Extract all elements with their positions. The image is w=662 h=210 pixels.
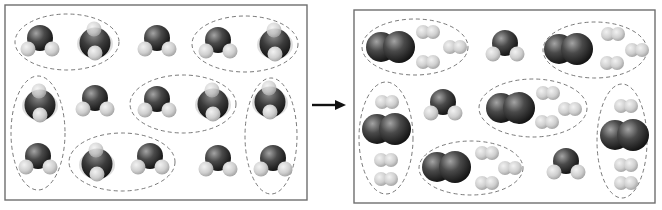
reaction-diagram [0,0,662,210]
oxygen-molecule-icon [544,33,593,65]
arrow-head-icon [335,100,346,110]
oxygen-molecule-icon [600,119,649,151]
oxygen-molecule-icon [362,113,411,145]
oxygen-molecule-icon [366,31,415,63]
oxygen-molecule-icon [422,151,471,183]
oxygen-molecule-icon [486,92,535,124]
reaction-arrow [312,100,346,110]
